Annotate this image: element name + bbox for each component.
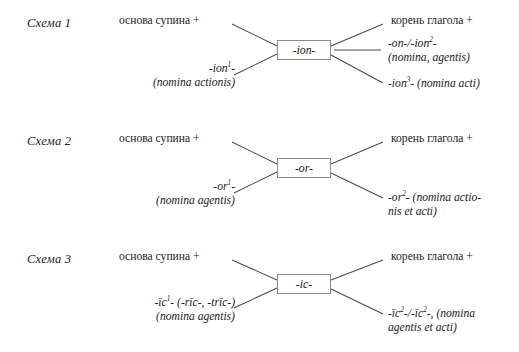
scheme-1-mr-line2: (nomina, agentis) bbox=[388, 51, 518, 65]
scheme-1-title: Схема 1 bbox=[27, 16, 71, 31]
scheme-1-br-stem: -ion bbox=[388, 77, 407, 90]
scheme-3-center-box: -ic- bbox=[277, 274, 331, 294]
scheme-2-bl-stem: -or bbox=[213, 180, 227, 193]
scheme-2-center-box: -or- bbox=[277, 158, 331, 178]
connector-box-to-top-right bbox=[331, 24, 383, 46]
scheme-3-center-box-label: -ic- bbox=[296, 277, 312, 292]
scheme-1-mr-line1: -on-/-ion2- bbox=[388, 37, 518, 51]
connector-box-to-bottom-right bbox=[331, 55, 383, 83]
scheme-3-bl-tail: - (-rīc-, -trīc-) bbox=[170, 296, 235, 309]
connector-box-to-top-right bbox=[331, 260, 383, 280]
scheme-1-bl-stem: -ion bbox=[209, 62, 228, 75]
scheme-3-top-right-label: корень глагола + bbox=[391, 250, 473, 264]
scheme-1-top-right-label: корень глагола + bbox=[391, 14, 473, 28]
scheme-1-bl-tail: - bbox=[231, 62, 235, 75]
scheme-1-top-left-label: основа супина + bbox=[119, 14, 200, 28]
scheme-2-bl-tail: - bbox=[231, 180, 235, 193]
scheme-2-top-right-label: корень глагола + bbox=[391, 132, 473, 146]
connector-box-to-bottom-right bbox=[331, 289, 383, 314]
scheme-2-title: Схема 2 bbox=[27, 134, 71, 149]
scheme-2-top-left-label: основа супина + bbox=[119, 132, 200, 146]
scheme-1: Схема 1 основа супина + -ion1- (nomina a… bbox=[0, 0, 519, 117]
scheme-1-center-box: -ion- bbox=[277, 40, 331, 60]
scheme-1-bottom-right-label: -ion3- (nomina acti) bbox=[388, 77, 518, 91]
scheme-1-mid-right-label: -on-/-ion2- (nomina, agentis) bbox=[388, 37, 518, 64]
scheme-2-br-stem: -or bbox=[388, 191, 402, 204]
scheme-3-top-left-label: основа супина + bbox=[119, 250, 200, 264]
scheme-1-mr-tail: - bbox=[433, 37, 437, 50]
scheme-3-br-mid: -/-īc bbox=[404, 307, 423, 320]
scheme-3-title: Схема 3 bbox=[27, 252, 71, 267]
connector-box-to-top-left bbox=[232, 260, 277, 280]
scheme-1-bottom-left-line2: (nomina actionis) bbox=[60, 76, 235, 90]
scheme-1-bottom-left-line1: -ion1- bbox=[60, 62, 235, 76]
scheme-3: Схема 3 основа супина + -īc1- (-rīc-, -t… bbox=[0, 236, 519, 352]
scheme-2-br-line2: nis et acti) bbox=[388, 205, 519, 219]
scheme-3-bottom-left-line1: -īc1- (-rīc-, -trīc-) bbox=[40, 296, 235, 310]
connector-box-to-top-right bbox=[331, 142, 383, 164]
connector-box-to-top-left bbox=[232, 142, 277, 164]
scheme-3-br-stem: -īc bbox=[388, 307, 400, 320]
scheme-3-br-tail: -, (nomina bbox=[427, 307, 475, 320]
scheme-1-center-box-label: -ion- bbox=[293, 43, 316, 58]
scheme-3-br-line2: agentis et acti) bbox=[388, 321, 519, 335]
connector-box-to-bottom-left bbox=[234, 54, 277, 75]
scheme-1-bottom-left-label: -ion1- (nomina actionis) bbox=[60, 62, 235, 89]
connector-box-to-bottom-right bbox=[331, 173, 383, 198]
connector-box-to-bottom-left bbox=[234, 288, 277, 308]
scheme-3-bottom-left-line2: (nomina agentis) bbox=[40, 310, 235, 324]
scheme-2-bottom-left-line1: -or1- bbox=[60, 180, 235, 194]
connector-box-to-bottom-left bbox=[234, 172, 277, 193]
scheme-1-br-tail: - (nomina acti) bbox=[410, 77, 480, 90]
scheme-2-center-box-label: -or- bbox=[295, 161, 313, 176]
scheme-2-bottom-left-line2: (nomina agentis) bbox=[60, 194, 235, 208]
scheme-3-br-line1: -īc2-/-īc2-, (nomina bbox=[388, 307, 519, 321]
connector-box-to-top-left bbox=[232, 24, 277, 46]
scheme-2-br-line1: -or2- (nomina actio- bbox=[388, 191, 519, 205]
scheme-3-bottom-right-label: -īc2-/-īc2-, (nomina agentis et acti) bbox=[388, 307, 519, 334]
scheme-2-bottom-right-label: -or2- (nomina actio- nis et acti) bbox=[388, 191, 519, 218]
scheme-1-br-line1: -ion3- (nomina acti) bbox=[388, 77, 518, 91]
scheme-3-bl-stem: -īc bbox=[154, 296, 166, 309]
scheme-2-br-tail: - (nomina actio- bbox=[406, 191, 481, 204]
scheme-1-mr-stem: -on-/-ion bbox=[388, 37, 429, 50]
scheme-2: Схема 2 основа супина + -or1- (nomina ag… bbox=[0, 118, 519, 235]
scheme-3-bottom-left-label: -īc1- (-rīc-, -trīc-) (nomina agentis) bbox=[40, 296, 235, 323]
scheme-2-bottom-left-label: -or1- (nomina agentis) bbox=[60, 180, 235, 207]
